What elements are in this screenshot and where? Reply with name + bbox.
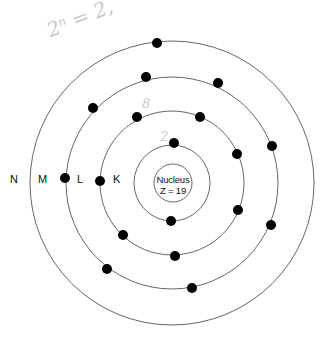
electron-m [187,283,197,293]
handwritten-k-count: 2 [160,129,168,144]
nucleus-charge: Z = 19 [152,185,194,196]
label-l: L [77,173,83,185]
label-m: M [38,173,47,185]
handwritten-l-count: 8 [142,96,150,111]
nucleus-text: Nucleus Z = 19 [152,174,194,196]
electron-k [169,138,179,148]
atom-diagram [0,0,324,337]
electron-m [60,173,70,183]
electron-l [95,176,105,186]
electron-l [232,149,242,159]
electron-m [88,103,98,113]
label-k: K [113,173,120,185]
electron-l [195,112,205,122]
electron-m [266,220,276,230]
electron-m [213,78,223,88]
electron-l [233,205,243,215]
label-n: N [10,173,18,185]
electron-l [118,230,128,240]
electron-m [267,141,277,151]
electron-k [166,216,176,226]
electron-l [170,251,180,261]
electron-m [102,264,112,274]
nucleus-label: Nucleus [152,174,194,185]
electron-l [132,112,142,122]
electron-m [141,72,151,82]
electron-n [152,38,162,48]
